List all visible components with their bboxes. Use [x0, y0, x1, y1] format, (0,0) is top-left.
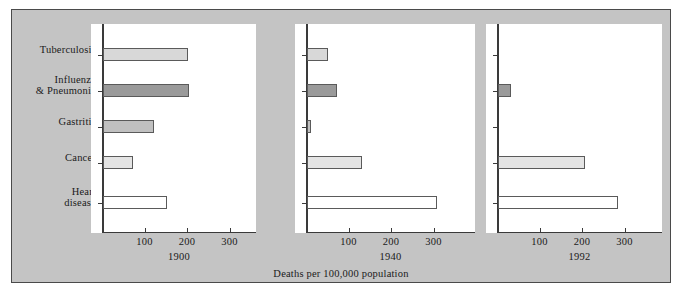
bar [103, 84, 189, 97]
bar [103, 196, 167, 209]
bar [498, 156, 585, 169]
bar [103, 48, 188, 61]
chart-frame: TuberculosisInfluenza& PneumoniaGastriti… [11, 9, 671, 283]
y-tick [302, 127, 306, 128]
bar [307, 84, 337, 97]
chart-panel-1900 [91, 24, 256, 233]
panel-year-label: 1940 [306, 251, 475, 262]
x-tick-label: 300 [414, 236, 454, 247]
x-tick-label: 100 [125, 236, 165, 247]
x-tick [391, 228, 392, 233]
bar [103, 156, 133, 169]
x-tick-label: 300 [210, 236, 250, 247]
category-label-line: Tuberculosis [14, 44, 96, 55]
category-label: Cancer [14, 152, 96, 163]
x-tick-label: 200 [167, 236, 207, 247]
chart-panel-1940 [295, 24, 475, 233]
y-tick [493, 55, 497, 56]
x-tick-label: 200 [562, 236, 602, 247]
y-tick [98, 163, 102, 164]
x-tick [145, 228, 146, 233]
x-axis-line [497, 232, 662, 234]
y-tick [493, 91, 497, 92]
y-tick [302, 163, 306, 164]
chart-panel-1992 [486, 24, 662, 233]
x-tick [187, 228, 188, 233]
y-tick [302, 91, 306, 92]
panel-year-label: 1992 [497, 251, 662, 262]
y-tick [493, 127, 497, 128]
x-tick-label: 300 [605, 236, 645, 247]
category-label-line: Heart [14, 186, 96, 197]
y-tick [493, 163, 497, 164]
x-tick [349, 228, 350, 233]
x-tick [434, 228, 435, 233]
figure-caption: Deaths per 100,000 population [12, 268, 670, 279]
category-label: Heartdisease [14, 186, 96, 208]
x-tick-label: 100 [520, 236, 560, 247]
panel-year-label: 1900 [102, 251, 256, 262]
bar [498, 84, 511, 97]
bar [103, 120, 154, 133]
y-tick [302, 203, 306, 204]
bar [498, 196, 618, 209]
y-tick [98, 203, 102, 204]
x-tick-label: 100 [329, 236, 369, 247]
y-tick [98, 91, 102, 92]
x-tick [582, 228, 583, 233]
bar [307, 156, 362, 169]
x-tick-label: 200 [371, 236, 411, 247]
x-axis-line [102, 232, 256, 234]
y-tick [98, 55, 102, 56]
x-tick [230, 228, 231, 233]
x-tick [540, 228, 541, 233]
category-label-line: disease [14, 197, 96, 208]
figure-root: TuberculosisInfluenza& PneumoniaGastriti… [0, 0, 682, 295]
category-label: Influenza& Pneumonia [14, 74, 96, 96]
bar [307, 120, 311, 133]
y-tick [493, 203, 497, 204]
y-tick [302, 55, 306, 56]
category-label-line: Gastritis [14, 116, 96, 127]
x-tick [625, 228, 626, 233]
category-label: Gastritis [14, 116, 96, 127]
bar [307, 48, 328, 61]
category-label-line: Cancer [14, 152, 96, 163]
y-tick [98, 127, 102, 128]
category-label: Tuberculosis [14, 44, 96, 55]
bar [307, 196, 437, 209]
category-label-line: Influenza [14, 74, 96, 85]
category-label-line: & Pneumonia [14, 85, 96, 96]
